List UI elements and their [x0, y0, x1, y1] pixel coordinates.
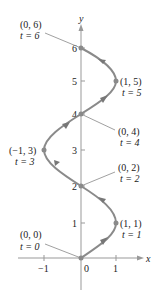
svg-text:t = 3: t = 3 — [15, 156, 35, 167]
svg-text:t = 0: t = 0 — [20, 241, 40, 252]
parametric-curve — [44, 48, 116, 258]
y-tick-label: 1 — [72, 218, 77, 229]
x-tick-label: 0 — [84, 263, 89, 274]
x-tick-label: −1 — [38, 263, 49, 274]
svg-text:(0, 0): (0, 0) — [20, 229, 42, 241]
svg-text:t = 1: t = 1 — [122, 229, 142, 240]
arrow-icon — [62, 122, 70, 129]
svg-text:t = 2: t = 2 — [120, 173, 140, 184]
y-tick-label: 3 — [72, 145, 77, 156]
point-label-t5: (1, 5) t = 5 — [120, 76, 142, 98]
leader-lines — [45, 33, 115, 258]
arrow-icon — [54, 160, 60, 166]
axis-ticks — [44, 48, 116, 261]
point-label-t6: (0, 6) t = 6 — [20, 19, 42, 41]
point-label-t1: (1, 1) t = 1 — [120, 218, 142, 240]
arrow-icon — [100, 95, 108, 103]
point-label-t0: (0, 0) t = 0 — [20, 229, 42, 252]
x-axis-arrow-icon — [137, 256, 144, 261]
y-axis-arrow-icon — [79, 24, 84, 31]
point-label-t4: (0, 4) t = 4 — [118, 126, 140, 148]
curve-points — [42, 46, 119, 261]
y-tick-label: 5 — [72, 76, 77, 87]
svg-text:t = 5: t = 5 — [122, 87, 142, 98]
x-axis-label: x — [145, 253, 151, 264]
svg-text:t = 6: t = 6 — [20, 30, 40, 41]
parametric-curve-diagram: x y −1 0 1 1 2 3 4 5 6 (0, 0) t = 0 — [0, 0, 162, 296]
y-axis-label: y — [78, 13, 84, 24]
point-label-t3: (−1, 3) t = 3 — [9, 145, 36, 167]
svg-text:t = 4: t = 4 — [120, 137, 140, 148]
point-label-t2: (0, 2) t = 2 — [118, 162, 140, 184]
x-tick-label: 1 — [113, 263, 118, 274]
